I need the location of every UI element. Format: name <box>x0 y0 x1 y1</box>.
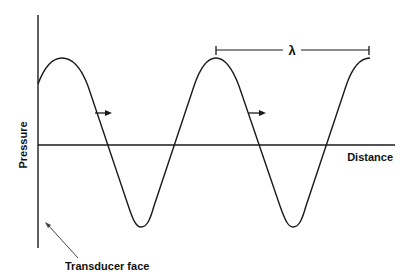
x-axis-label: Distance <box>347 151 393 163</box>
transducer-arrow <box>45 222 78 258</box>
wavelength-label: λ <box>288 43 296 58</box>
pressure-wave-diagram: λ Pressure Distance Transducer face <box>0 0 406 278</box>
transducer-face-label: Transducer face <box>65 260 149 272</box>
direction-arrow-2 <box>248 110 266 116</box>
y-axis-label: Pressure <box>17 121 29 168</box>
pressure-wave <box>38 58 370 227</box>
